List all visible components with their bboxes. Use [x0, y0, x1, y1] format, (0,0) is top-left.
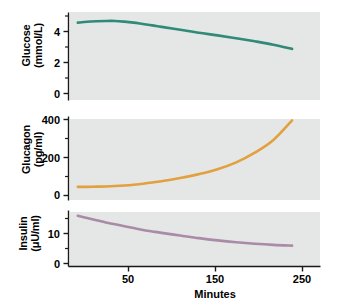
- axes-insulin: [0, 0, 340, 308]
- data-line-insulin: [78, 216, 292, 246]
- xaxis-title: Minutes: [165, 288, 265, 300]
- figure-root: Glucose (mmol/L) 4 2 0 Glucagon (pg/ml): [0, 0, 340, 308]
- xtick-label-50: 50: [110, 273, 146, 285]
- xtick-label-150: 150: [197, 273, 233, 285]
- xtick-label-250: 250: [284, 273, 320, 285]
